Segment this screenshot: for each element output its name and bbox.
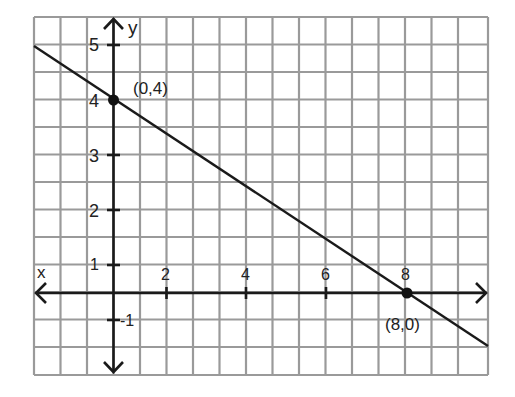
point-label-0-4: (0,4) bbox=[133, 80, 168, 97]
y-tick-1: 1 bbox=[90, 257, 99, 273]
y-tick-neg1: -1 bbox=[120, 313, 134, 329]
y-tick-2: 2 bbox=[89, 202, 99, 220]
coordinate-plane bbox=[0, 0, 515, 397]
x-axis-label: x bbox=[37, 264, 46, 281]
x-tick-8: 8 bbox=[401, 267, 410, 283]
y-tick-4: 4 bbox=[89, 92, 99, 110]
x-tick-6: 6 bbox=[321, 267, 330, 283]
point-label-8-0: (8,0) bbox=[385, 316, 420, 333]
y-tick-5: 5 bbox=[89, 36, 99, 54]
point-0-4 bbox=[108, 95, 119, 106]
x-tick-2: 2 bbox=[161, 267, 170, 283]
x-tick-4: 4 bbox=[241, 267, 250, 283]
y-tick-3: 3 bbox=[89, 147, 99, 165]
linear-function-line bbox=[34, 46, 488, 346]
y-axis-label: y bbox=[128, 18, 138, 37]
point-8-0 bbox=[402, 288, 413, 299]
